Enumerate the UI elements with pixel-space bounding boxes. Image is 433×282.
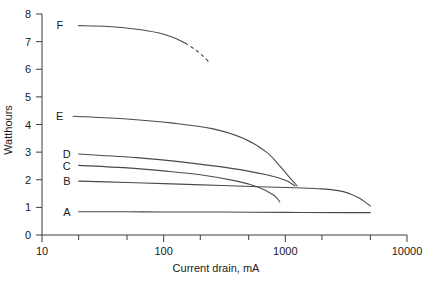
curve-d <box>79 154 295 186</box>
curve-f-dashed-extrapolation <box>185 43 210 63</box>
curve-label-e: E <box>56 110 63 122</box>
y-tick-label: 3 <box>25 146 31 158</box>
watthours-vs-current-drain-chart: 10100100010000 012345678 Current drain, … <box>0 0 433 282</box>
curve-label-b: B <box>63 175 70 187</box>
x-tick-label: 1000 <box>273 245 297 257</box>
curve-labels: ABCDEF <box>56 19 71 217</box>
curve-b <box>79 181 371 206</box>
y-tick-label: 0 <box>25 229 31 241</box>
data-curves <box>73 26 370 213</box>
chart-figure: 10100100010000 012345678 Current drain, … <box>0 0 433 282</box>
x-tick-label: 100 <box>154 245 172 257</box>
y-tick-label: 6 <box>25 63 31 75</box>
y-axis-title: Watthours <box>2 105 14 155</box>
y-axis-tick-labels: 012345678 <box>25 8 31 241</box>
plot-axes <box>36 14 407 242</box>
y-tick-label: 8 <box>25 8 31 20</box>
x-axis-ticks <box>42 235 407 242</box>
curve-label-f: F <box>56 19 63 31</box>
y-tick-label: 1 <box>25 201 31 213</box>
curve-label-c: C <box>63 160 71 172</box>
curve-f <box>79 26 185 43</box>
y-tick-label: 2 <box>25 174 31 186</box>
curve-e <box>73 116 297 186</box>
axis-lines <box>42 14 407 235</box>
x-axis-title: Current drain, mA <box>173 262 260 274</box>
x-axis-tick-labels: 10100100010000 <box>36 245 422 257</box>
curve-label-d: D <box>63 148 71 160</box>
y-tick-label: 4 <box>25 119 31 131</box>
x-tick-label: 10 <box>36 245 48 257</box>
y-axis-ticks <box>36 14 42 235</box>
curve-label-a: A <box>63 206 71 218</box>
y-tick-label: 5 <box>25 91 31 103</box>
curve-a <box>79 212 371 213</box>
x-tick-label: 10000 <box>392 245 423 257</box>
y-tick-label: 7 <box>25 36 31 48</box>
